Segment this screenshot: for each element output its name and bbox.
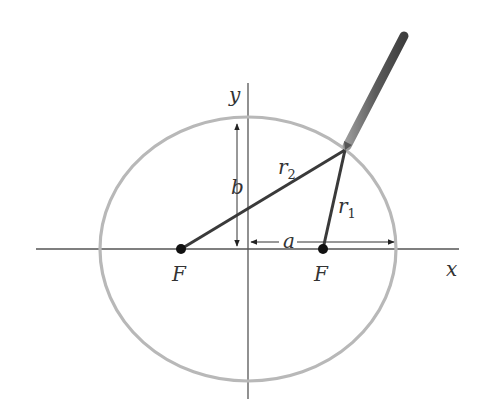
semi-major-label: a (283, 229, 295, 253)
r2-label: r2 (278, 155, 296, 182)
pen-icon (344, 36, 404, 150)
string-r2 (181, 150, 345, 249)
y-axis-label: y (228, 83, 241, 107)
ellipse-foci-diagram: y x b a F F r2 r1 (0, 0, 496, 417)
focus-right-dot (318, 244, 328, 254)
focus-left-label: F (171, 262, 187, 286)
r1-label: r1 (338, 194, 356, 221)
semi-minor-label: b (231, 175, 244, 199)
focus-left-dot (176, 244, 186, 254)
focus-right-label: F (313, 262, 329, 286)
x-axis-label: x (446, 257, 457, 281)
